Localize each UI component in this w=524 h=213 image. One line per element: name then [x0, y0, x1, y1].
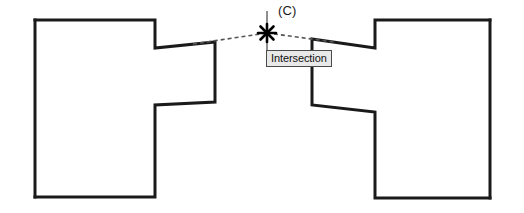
osnap-tooltip: Intersection — [266, 50, 332, 67]
right-bracket-part — [312, 20, 490, 198]
technical-drawing-svg — [0, 0, 524, 213]
left-construction-line — [193, 33, 267, 44]
left-bracket-part — [35, 20, 215, 197]
right-construction-line — [267, 33, 334, 42]
intersection-snap-marker — [258, 24, 276, 42]
drawing-canvas-area: (C) Intersection — [0, 0, 524, 213]
callout-label-c: (C) — [278, 3, 297, 18]
